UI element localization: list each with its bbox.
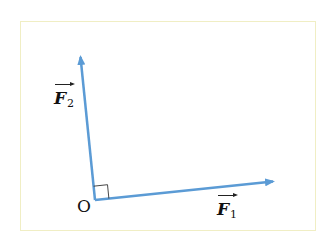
origin-label: O [77,196,91,216]
vector-f2-subscript: 2 [67,97,74,110]
vector-f1-name: F [217,199,229,219]
vector-f1-subscript: 1 [230,208,237,221]
origin-text: O [77,196,91,216]
vector-arrow-icon [218,195,235,196]
vector-f2-label: F2 [54,88,74,110]
vector-f2-name: F [54,88,66,108]
vector-f1-symbol: F1 [217,199,237,221]
vector-f1-label: F1 [217,199,237,221]
vector-f1-line [95,182,273,201]
vector-arrow-icon [55,84,72,85]
vector-f2-line [81,57,96,200]
vector-f2-symbol: F2 [54,88,74,110]
vector-diagram [0,0,332,243]
